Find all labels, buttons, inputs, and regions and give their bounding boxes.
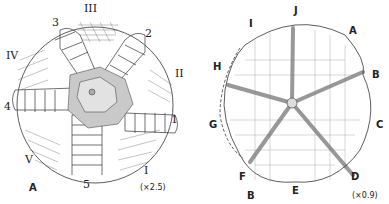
ambulacrum-label-III: III	[84, 3, 97, 14]
perimeter-label-H: H	[213, 62, 221, 72]
panel-label-a: A	[29, 183, 37, 193]
perimeter-label-C: C	[376, 120, 383, 130]
interambulacrum-label-3: 3	[52, 17, 59, 28]
perimeter-label-F: F	[239, 172, 246, 182]
perimeter-label-A: A	[349, 26, 357, 36]
perimeter-label-E: E	[292, 186, 299, 196]
sand-dollar-drawing	[195, 0, 389, 204]
perimeter-label-B: B	[372, 70, 380, 80]
ambulacrum-label-I: I	[144, 165, 148, 176]
ambulacrum-label-V: V	[25, 154, 33, 165]
perimeter-label-J: J	[294, 6, 298, 16]
scale-label-a: (×2.5)	[140, 184, 166, 192]
panel-label-b: B	[247, 191, 255, 201]
ambulacrum-label-II: II	[175, 68, 184, 79]
figure-a-sea-urchin-apical-view: III 3 2 IV II 4 1 V I 5 A (×2.5)	[0, 0, 195, 204]
scale-label-b: (×0.9)	[352, 192, 378, 200]
perimeter-label-I: I	[249, 19, 253, 29]
interambulacrum-label-2: 2	[145, 28, 152, 39]
interambulacrum-label-5: 5	[83, 179, 90, 190]
perimeter-label-D: D	[351, 172, 359, 182]
urchin-apical-drawing	[0, 0, 195, 204]
interambulacrum-label-1: 1	[171, 114, 178, 125]
perimeter-label-G: G	[209, 120, 217, 130]
interambulacrum-label-4: 4	[4, 101, 11, 112]
figure-b-sand-dollar-view: J I A H B G C F D E B (×0.9)	[195, 0, 389, 204]
ambulacrum-label-IV: IV	[6, 50, 18, 61]
